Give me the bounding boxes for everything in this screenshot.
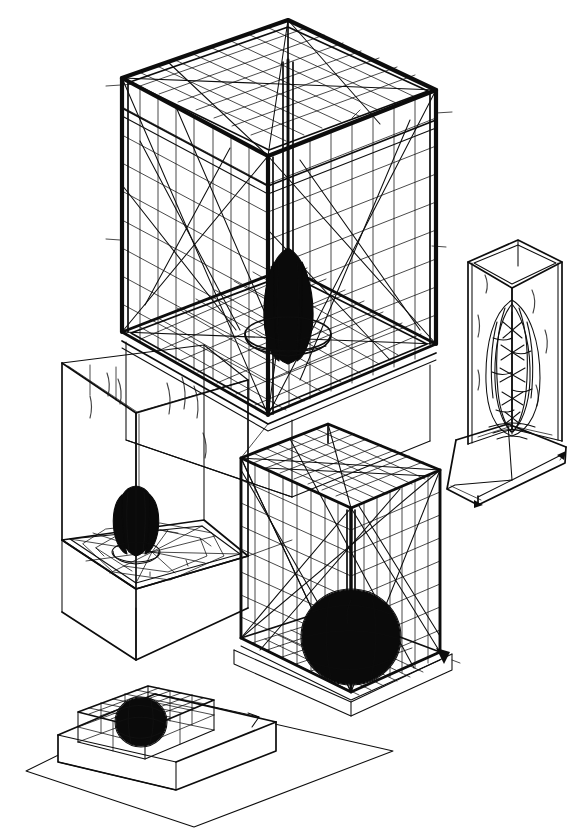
axonometric-ink-drawing bbox=[0, 0, 577, 839]
conical-tree bbox=[245, 248, 331, 364]
glass-vitrine-paved bbox=[62, 345, 248, 660]
lattice-top-mesh bbox=[139, 28, 415, 141]
tall-column-vitrine bbox=[447, 240, 566, 508]
low-grid-tray bbox=[58, 686, 276, 790]
cypress-tree bbox=[486, 288, 540, 439]
wire-cage-vitrine bbox=[234, 424, 452, 716]
large-lattice-vitrine bbox=[106, 20, 452, 497]
sphere-topiary bbox=[301, 589, 401, 685]
sketch-canvas: Axonometric study of five vitrine enclos… bbox=[0, 0, 577, 839]
ball-topiary-small bbox=[115, 697, 167, 747]
